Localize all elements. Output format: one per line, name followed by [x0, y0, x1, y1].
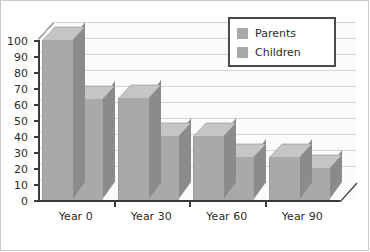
y-axis-tick: 30: [34, 152, 39, 154]
bar: [118, 98, 148, 200]
bar-front-face: [193, 136, 224, 200]
y-axis-tick-label: 80: [14, 67, 28, 80]
y-axis-tick-label: 30: [14, 147, 28, 160]
legend-swatch-children: [237, 47, 248, 58]
x-axis-tick: [265, 202, 267, 207]
y-axis-tick-label: 40: [14, 131, 28, 144]
bar-front-face: [42, 40, 73, 200]
legend-label-children: Children: [255, 46, 301, 59]
legend-item-parents: Parents: [237, 24, 327, 43]
y-axis-tick: 100: [34, 40, 39, 42]
y-axis-tick-label: 0: [21, 195, 28, 208]
x-axis-tick: [114, 202, 116, 207]
x-axis-tick-label: Year 90: [282, 210, 323, 223]
bar-chart: 0102030405060708090100 Year 0Year 30Year…: [0, 0, 370, 252]
bar-front-face: [118, 98, 149, 200]
bar: [269, 157, 299, 200]
depth-edge-bottom-right: [340, 182, 358, 202]
gridline: [54, 70, 356, 71]
bar: [193, 136, 223, 200]
x-axis-tick-label: Year 60: [206, 210, 247, 223]
bar-front-face: [269, 157, 300, 200]
y-axis-tick-label: 100: [7, 35, 28, 48]
y-axis-tick: 40: [34, 136, 39, 138]
y-axis-tick: 80: [34, 72, 39, 74]
bar-top-face: [269, 143, 312, 157]
x-axis-tick-label: Year 30: [131, 210, 172, 223]
y-axis-tick-label: 70: [14, 83, 28, 96]
bar-top-face: [193, 122, 236, 136]
legend-label-parents: Parents: [255, 27, 296, 40]
y-axis-tick-label: 90: [14, 51, 28, 64]
y-axis-tick: 60: [34, 104, 39, 106]
bar-side-face: [72, 22, 85, 200]
y-axis-tick-label: 10: [14, 179, 28, 192]
legend-swatch-parents: [237, 28, 248, 39]
y-axis-tick-label: 50: [14, 115, 28, 128]
legend-item-children: Children: [237, 43, 327, 62]
legend: Parents Children: [228, 17, 336, 67]
y-axis-tick: 10: [34, 184, 39, 186]
bar-top-face: [42, 26, 85, 40]
bar-top-face: [118, 84, 161, 98]
y-axis-tick: 90: [34, 56, 39, 58]
x-axis-tick: [189, 202, 191, 207]
y-axis-tick: 50: [34, 120, 39, 122]
x-axis-tick-label: Year 0: [59, 210, 93, 223]
y-axis-tick-label: 60: [14, 99, 28, 112]
bar-side-face: [148, 80, 161, 200]
bar: [42, 40, 72, 200]
y-axis-tick: 20: [34, 168, 39, 170]
y-axis-line: 0102030405060708090100: [38, 40, 40, 200]
y-axis-tick-label: 20: [14, 163, 28, 176]
y-axis-tick: 70: [34, 88, 39, 90]
